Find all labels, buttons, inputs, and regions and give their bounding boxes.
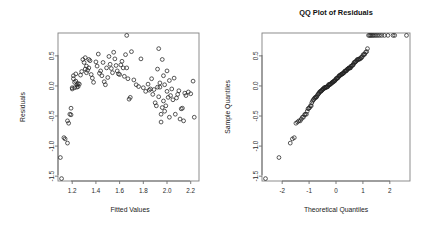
data-point (126, 77, 130, 81)
y-tick-label: -1.0 (49, 140, 56, 151)
data-point (163, 83, 167, 87)
data-point (173, 112, 177, 116)
y-tick-label: 0.5 (49, 51, 56, 60)
data-point (107, 55, 111, 59)
right-scatter-points (264, 34, 409, 181)
left-x-axis-title: Fitted Values (110, 206, 150, 213)
data-point (106, 76, 110, 80)
x-tick-label: 1.2 (68, 187, 77, 194)
left-x-axis: 1.21.41.61.82.02.2 Fitted Values (68, 181, 196, 213)
data-point (175, 96, 179, 100)
data-point (109, 67, 113, 71)
data-point (79, 73, 83, 77)
data-point (125, 34, 129, 38)
right-x-axis: -2-1012 Theoretical Quantiles (279, 181, 392, 214)
data-point (80, 70, 84, 74)
left-plot-frame (58, 33, 199, 181)
right-y-axis: 0.50.0-0.5-1.0-1.5 Sample Quantiles (224, 51, 262, 182)
data-point (94, 60, 98, 64)
data-point (177, 89, 181, 93)
data-point (113, 57, 117, 61)
data-point (112, 50, 116, 54)
data-point (182, 119, 186, 123)
data-point (165, 69, 169, 73)
data-point (58, 156, 62, 160)
data-point (167, 79, 171, 83)
y-tick-label: -1.0 (253, 140, 260, 151)
data-point (170, 87, 174, 91)
data-point (101, 61, 105, 65)
data-point (130, 50, 134, 54)
y-tick-label: -0.5 (49, 110, 56, 121)
data-point (156, 67, 160, 71)
figure-canvas: 0.50.0-0.5-1.0-1.5 Residuals 1.21.41.61.… (0, 0, 425, 238)
data-point (164, 104, 168, 108)
data-point (132, 78, 136, 82)
x-tick-label: 1.4 (92, 187, 101, 194)
left-scatter-points (58, 34, 196, 181)
data-point (66, 141, 70, 145)
data-point (152, 88, 156, 92)
data-point (105, 66, 109, 70)
data-point (165, 89, 169, 93)
data-point (264, 177, 268, 181)
data-point (96, 52, 100, 56)
x-tick-label: -1 (306, 187, 312, 194)
data-point (141, 86, 145, 90)
data-point (111, 71, 115, 75)
data-point (178, 117, 182, 121)
data-point (150, 77, 154, 81)
data-point (160, 58, 164, 62)
data-point (120, 59, 124, 63)
left-y-axis: 0.50.0-0.5-1.0-1.5 Residuals (19, 51, 58, 182)
data-point (162, 74, 166, 78)
data-point (95, 64, 99, 68)
right-y-axis-title: Sample Quantiles (224, 80, 232, 134)
x-tick-label: -2 (279, 187, 285, 194)
data-point (90, 76, 94, 80)
data-point (162, 99, 166, 103)
data-point (158, 81, 162, 85)
data-point (108, 62, 112, 66)
data-point (157, 95, 161, 99)
data-point (163, 109, 167, 113)
data-point (157, 47, 161, 51)
left-x-tick-labels: 1.21.41.61.82.02.2 (68, 187, 196, 194)
x-tick-label: 1 (361, 187, 365, 194)
data-point (100, 74, 104, 78)
data-point (159, 120, 163, 124)
right-x-axis-title: Theoretical Quantiles (304, 206, 369, 214)
qq-plot-title: QQ Plot of Residuals (299, 8, 373, 17)
y-tick-label: -0.5 (253, 110, 260, 121)
data-point (176, 92, 180, 96)
two-panel-diagnostic-plot: 0.50.0-0.5-1.0-1.5 Residuals 1.21.41.61.… (0, 0, 425, 238)
data-point (139, 57, 143, 61)
x-tick-label: 2 (388, 187, 392, 194)
data-point (151, 92, 155, 96)
data-point (158, 85, 162, 89)
data-point (92, 80, 96, 84)
data-point (122, 74, 126, 78)
data-point (192, 115, 196, 119)
data-point (191, 79, 195, 83)
y-tick-label: 0.5 (253, 51, 260, 60)
data-point (124, 53, 128, 57)
data-point (172, 76, 176, 80)
data-point (405, 34, 409, 38)
data-point (167, 115, 171, 119)
left-y-tick-labels: 0.50.0-0.5-1.0-1.5 (49, 51, 56, 182)
right-y-tick-labels: 0.50.0-0.5-1.0-1.5 (253, 51, 260, 182)
x-tick-label: 0 (334, 187, 338, 194)
data-point (171, 98, 175, 102)
x-tick-label: 2.0 (163, 187, 172, 194)
data-point (114, 64, 118, 68)
y-tick-label: 0.0 (49, 81, 56, 90)
data-point (288, 141, 292, 145)
right-x-tick-labels: -2-1012 (279, 187, 392, 194)
y-tick-label: -1.5 (49, 170, 56, 181)
left-y-axis-title: Residuals (19, 91, 26, 121)
panel-residuals-vs-fitted: 0.50.0-0.5-1.0-1.5 Residuals 1.21.41.61.… (19, 33, 199, 213)
data-point (159, 112, 163, 116)
data-point (60, 177, 64, 181)
data-point (69, 106, 73, 110)
